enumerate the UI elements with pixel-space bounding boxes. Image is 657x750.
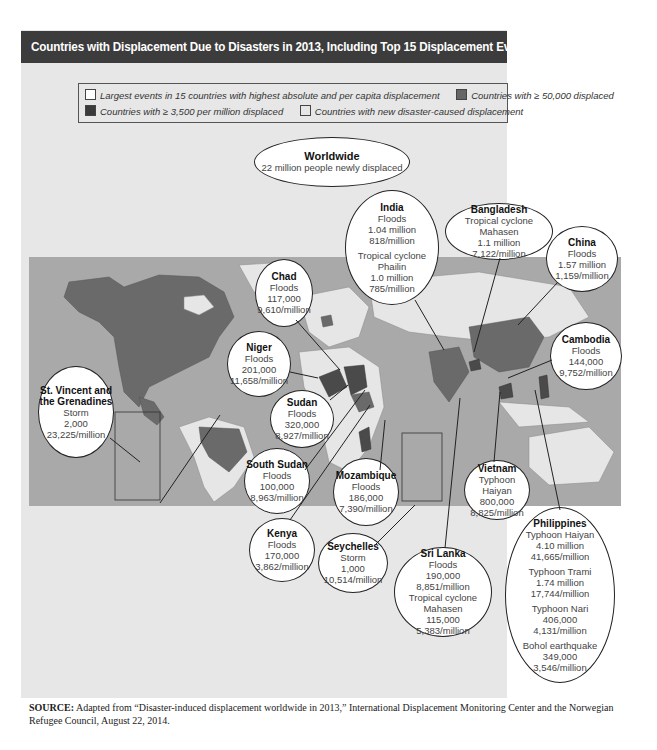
callout-south-sudan: South Sudan Floods 100,000 8,963/million bbox=[244, 448, 310, 514]
callout-bangladesh: Bangladesh Tropical cyclone Mahasen 1.1 … bbox=[445, 203, 553, 260]
source-label: SOURCE: bbox=[29, 702, 74, 713]
callout-st-vincent-and-the-grenadines: St. Vincent and the Grenadines Storm 2,0… bbox=[38, 366, 114, 458]
event-type: Typhoon Trami bbox=[529, 566, 592, 577]
event-type: Floods bbox=[429, 559, 458, 570]
event-type: Floods bbox=[568, 248, 597, 259]
event-type: Typhoon Haiyan bbox=[526, 529, 595, 540]
event-type: Floods bbox=[288, 408, 317, 419]
country-name: Sudan bbox=[287, 397, 318, 408]
legend: Largest events in 15 countries with high… bbox=[78, 83, 508, 123]
event-type: Floods bbox=[572, 345, 601, 356]
legend-item: Countries with ≥ 3,500 per million displ… bbox=[100, 106, 283, 117]
source-note: SOURCE: Adapted from “Disaster-induced d… bbox=[29, 701, 629, 727]
worldwide-callout: Worldwide 22 million people newly displa… bbox=[254, 137, 410, 187]
legend-swatch-gray-icon bbox=[456, 89, 467, 100]
country-name: Sri Lanka bbox=[420, 548, 465, 559]
callout-mozambique: Mozambique Floods 186,000 7,390/million bbox=[333, 458, 399, 526]
event-type: Storm bbox=[63, 407, 88, 418]
event-type: Floods bbox=[352, 481, 381, 492]
displaced-rate: 8,963/million bbox=[250, 492, 303, 503]
callout-seychelles: Seychelles Storm 1,000 10,514/million bbox=[318, 533, 388, 593]
displaced-count: 170,000 bbox=[265, 550, 299, 561]
displaced-count: 4.10 million bbox=[536, 540, 584, 551]
displaced-rate: 17,744/million bbox=[531, 588, 590, 599]
event-type: Floods bbox=[268, 539, 297, 550]
country-name: the Grenadines bbox=[40, 396, 113, 407]
displaced-rate: 4,131/million bbox=[533, 625, 586, 636]
displaced-rate: 9,752/million bbox=[559, 367, 612, 378]
callout-india: India Floods 1.04 million 818/million Tr… bbox=[345, 190, 439, 305]
displaced-count: 201,000 bbox=[242, 364, 276, 375]
displaced-count: 1,000 bbox=[341, 563, 365, 574]
worldwide-title: Worldwide bbox=[304, 151, 359, 162]
displaced-rate: 5,383/million bbox=[416, 625, 469, 636]
displaced-count: 800,000 bbox=[480, 496, 514, 507]
displaced-rate: 23,225/million bbox=[47, 429, 106, 440]
event-type: Floods bbox=[263, 470, 292, 481]
country-name: Bangladesh bbox=[471, 204, 528, 215]
event-type: Floods bbox=[378, 213, 407, 224]
country-name: South Sudan bbox=[246, 459, 308, 470]
callout-sri-lanka: Sri Lanka Floods 190,000 8,851/million T… bbox=[394, 547, 492, 637]
country-name: Mozambique bbox=[336, 470, 397, 481]
legend-swatch-dark-icon bbox=[85, 105, 96, 116]
country-name: Vietnam bbox=[478, 463, 517, 474]
country-name: China bbox=[568, 237, 596, 248]
worldwide-text: 22 million people newly displaced bbox=[261, 162, 402, 173]
event-type: Floods bbox=[270, 282, 299, 293]
displaced-rate: 8,927/million bbox=[275, 430, 328, 441]
displaced-rate: 10,514/million bbox=[324, 574, 383, 585]
displaced-rate: 1,159/million bbox=[555, 270, 608, 281]
world-map-graphic bbox=[29, 257, 621, 506]
callout-cambodia: Cambodia Floods 144,000 9,752/million bbox=[550, 322, 622, 390]
callout-sudan: Sudan Floods 320,000 8,927/million bbox=[270, 390, 334, 448]
event-type: Storm bbox=[340, 552, 365, 563]
event-type: Tropical cyclone Mahasen bbox=[446, 215, 552, 237]
legend-swatch-light-icon bbox=[300, 105, 311, 116]
country-name: Chad bbox=[272, 271, 297, 282]
event-type: Bohol earthquake bbox=[523, 640, 597, 651]
event-type: Floods bbox=[245, 353, 274, 364]
displaced-rate: 9,610/million bbox=[257, 304, 310, 315]
event-type: Typhoon Haiyan bbox=[465, 474, 529, 496]
displaced-rate: 11,658/million bbox=[230, 375, 288, 386]
displaced-count: 2,000 bbox=[64, 418, 88, 429]
callout-vietnam: Vietnam Typhoon Haiyan 800,000 8,825/mil… bbox=[464, 460, 530, 520]
figure-title-text: Countries with Displacement Due to Disas… bbox=[31, 31, 533, 63]
legend-swatch-white-icon bbox=[85, 89, 96, 100]
displaced-count: 320,000 bbox=[285, 419, 319, 430]
displaced-rate: 8,851/million bbox=[416, 581, 469, 592]
displaced-count: 100,000 bbox=[260, 481, 294, 492]
country-name: Niger bbox=[246, 342, 272, 353]
displaced-count: 186,000 bbox=[349, 492, 383, 503]
event-type: Typhoon Nari bbox=[532, 603, 589, 614]
callout-chad: Chad Floods 117,000 9,610/million bbox=[255, 259, 313, 327]
event-type: Tropical cyclone Mahasen bbox=[395, 592, 491, 614]
country-name: Kenya bbox=[267, 528, 297, 539]
world-map bbox=[29, 257, 621, 506]
displaced-rate: 818/million bbox=[369, 235, 414, 246]
callout-philippines: Philippines Typhoon Haiyan 4.10 million … bbox=[505, 507, 615, 683]
displaced-count: 190,000 bbox=[426, 570, 460, 581]
displaced-rate: 3,862/million bbox=[255, 561, 308, 572]
country-name: Seychelles bbox=[327, 541, 379, 552]
displaced-count: 1.74 million bbox=[536, 577, 584, 588]
displaced-rate: 41,665/million bbox=[531, 551, 590, 562]
displaced-count: 1.04 million bbox=[368, 224, 416, 235]
displaced-rate: 3,546/million bbox=[533, 662, 586, 673]
legend-item: Largest events in 15 countries with high… bbox=[100, 90, 440, 101]
event-type: Tropical cyclone Phailin bbox=[346, 250, 438, 272]
displaced-rate: 7,122/million bbox=[472, 248, 525, 259]
displaced-count: 1.57 million bbox=[558, 259, 606, 270]
displaced-count: 117,000 bbox=[267, 293, 301, 304]
displaced-count: 1.1 million bbox=[478, 237, 521, 248]
country-name: Cambodia bbox=[562, 334, 610, 345]
displaced-rate: 785/million bbox=[369, 283, 414, 294]
callout-china: China Floods 1.57 million 1,159/million bbox=[546, 226, 618, 292]
country-name: St. Vincent and bbox=[40, 385, 112, 396]
displaced-rate: 7,390/million bbox=[339, 503, 392, 514]
legend-item: Countries with ≥ 50,000 displaced bbox=[471, 90, 614, 101]
callout-kenya: Kenya Floods 170,000 3,862/million bbox=[249, 518, 315, 582]
displaced-count: 144,000 bbox=[569, 356, 603, 367]
displaced-count: 349,000 bbox=[543, 651, 577, 662]
